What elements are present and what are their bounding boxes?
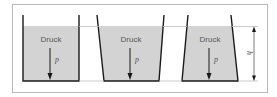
height-label: h (245, 51, 254, 55)
pressure-label: Druck (200, 35, 222, 44)
pressure-label: Druck (121, 35, 143, 44)
pressure-symbol: p (54, 55, 59, 64)
pressure-label: Druck (41, 35, 63, 44)
pressure-symbol: p (213, 55, 218, 64)
hydrostatic-paradox-diagram: Druck p Druck p Druck p h (0, 0, 277, 97)
pressure-symbol: p (134, 55, 139, 64)
